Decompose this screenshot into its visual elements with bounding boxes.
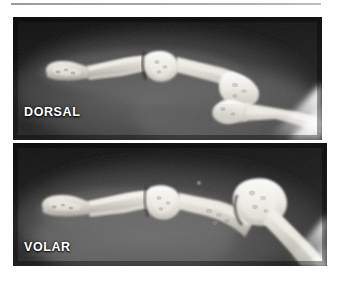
xray-image-dorsal (13, 17, 322, 140)
xray-panel-volar[interactable]: VOLAR (13, 143, 327, 266)
horizontal-rule (11, 3, 321, 5)
radiograph-figure: DORSAL (0, 0, 340, 282)
xray-panel-dorsal[interactable]: DORSAL (13, 17, 322, 140)
view-label-dorsal: DORSAL (24, 106, 80, 119)
view-label-volar: VOLAR (24, 241, 71, 254)
